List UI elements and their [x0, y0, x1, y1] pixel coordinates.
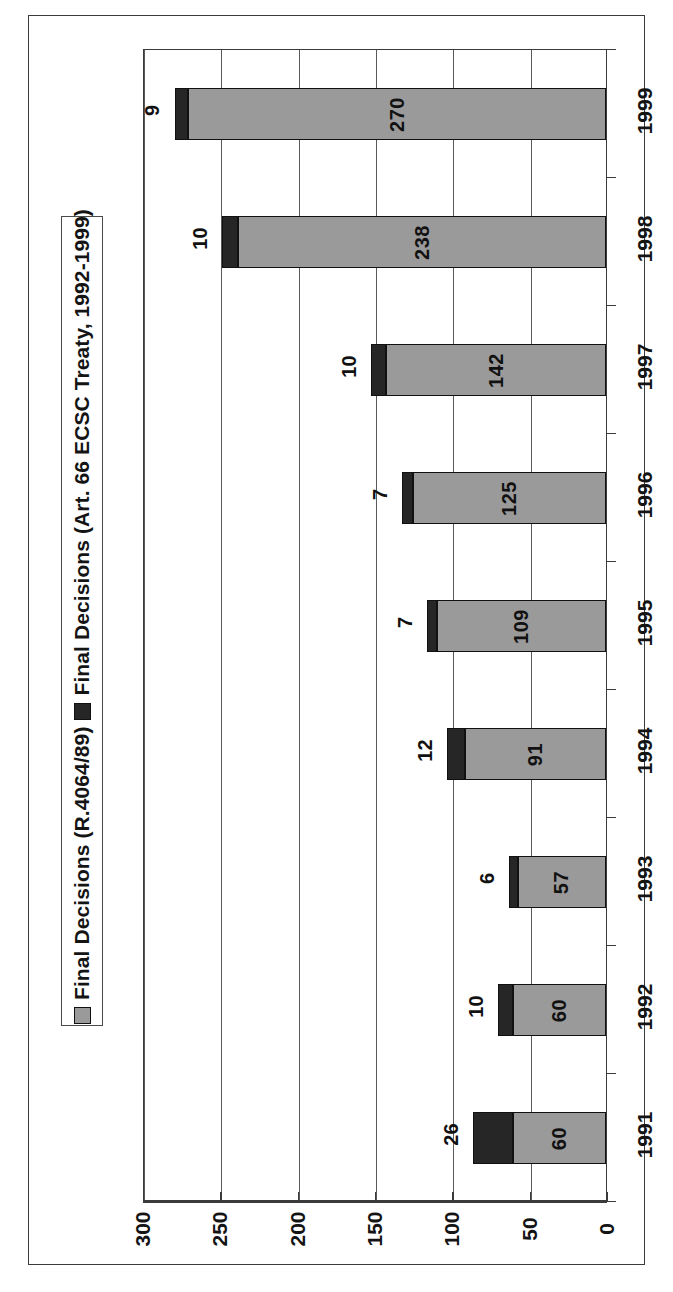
value-axis-tick-label: 0 — [595, 1201, 619, 1257]
legend-entry-secondary: Final Decisions (Art. 66 ECSC Treaty, 19… — [70, 209, 94, 719]
bar-segment-primary: 57 — [518, 856, 606, 908]
bar-value-label-primary: 270 — [386, 97, 409, 132]
bar-value-label-secondary: 7 — [368, 480, 391, 510]
bar-segment-primary: 60 — [513, 1112, 606, 1164]
bar-value-label-secondary: 26 — [439, 1120, 462, 1150]
legend-swatch-icon-primary — [74, 1007, 91, 1024]
bar-segment-secondary — [473, 1112, 513, 1164]
value-axis-tick-label: 200 — [286, 1201, 310, 1257]
bar-1996: 125 — [403, 472, 606, 524]
bar-1997: 142 — [372, 344, 606, 396]
bar-segment-secondary — [509, 856, 518, 908]
category-label-1992: 1992 — [633, 977, 657, 1037]
legend-entry-primary: Final Decisions (R.4064/89) — [70, 727, 94, 1024]
category-axis-tick — [607, 561, 616, 562]
bar-1991: 60 — [474, 1112, 606, 1164]
category-axis-tick — [607, 433, 616, 434]
bar-1995: 109 — [428, 600, 606, 652]
bar-value-label-primary: 142 — [485, 353, 508, 388]
bar-value-label-primary: 60 — [548, 1126, 571, 1149]
bar-segment-primary: 109 — [437, 600, 606, 652]
bar-segment-primary: 142 — [386, 344, 606, 396]
category-axis-tick — [607, 1073, 616, 1074]
bar-1994: 91 — [448, 728, 606, 780]
legend-entries: Final Decisions (R.4064/89) Final Decisi… — [63, 218, 101, 1024]
bar-value-label-secondary: 12 — [413, 736, 436, 766]
category-axis-tick — [607, 177, 616, 178]
bar-value-label-primary: 60 — [548, 998, 571, 1021]
bar-segment-primary: 91 — [465, 728, 606, 780]
bar-value-label-secondary: 9 — [141, 96, 164, 126]
bar-segment-primary: 125 — [413, 472, 606, 524]
legend-label-primary: Final Decisions (R.4064/89) — [70, 727, 94, 1000]
bar-value-label-secondary: 6 — [475, 864, 498, 894]
legend-swatch-icon-secondary — [74, 703, 91, 720]
category-axis-tick — [607, 689, 616, 690]
category-axis-tick — [607, 1201, 616, 1202]
bar-1998: 238 — [224, 216, 606, 268]
bar-value-label-primary: 125 — [498, 481, 521, 516]
category-label-1997: 1997 — [633, 337, 657, 397]
category-label-1998: 1998 — [633, 209, 657, 269]
bar-1999: 270 — [176, 88, 606, 140]
category-label-1991: 1991 — [633, 1105, 657, 1165]
category-label-1993: 1993 — [633, 849, 657, 909]
bar-segment-primary: 270 — [188, 88, 606, 140]
bar-segment-secondary — [402, 472, 413, 524]
bar-segment-primary: 60 — [513, 984, 606, 1036]
category-axis-tick — [607, 817, 616, 818]
chart-legend: Final Decisions (R.4064/89) Final Decisi… — [61, 216, 103, 1026]
value-axis-tick-label: 150 — [363, 1201, 387, 1257]
value-axis-tick-label: 50 — [518, 1201, 542, 1257]
value-axis-tick-label: 250 — [208, 1201, 232, 1257]
bar-value-label-primary: 57 — [550, 870, 573, 893]
category-label-1996: 1996 — [633, 465, 657, 525]
bar-segment-secondary — [498, 984, 513, 1036]
category-axis-tick — [607, 945, 616, 946]
bar-value-label-secondary: 10 — [464, 992, 487, 1022]
category-axis-tick — [607, 305, 616, 306]
bar-1992: 60 — [499, 984, 606, 1036]
bar-value-label-secondary: 7 — [393, 608, 416, 638]
bar-segment-secondary — [447, 728, 466, 780]
bar-value-label-secondary: 10 — [337, 352, 360, 382]
value-axis-tick-label: 100 — [440, 1201, 464, 1257]
legend-label-secondary: Final Decisions (Art. 66 ECSC Treaty, 19… — [70, 209, 94, 695]
bar-segment-secondary — [175, 88, 189, 140]
gridline — [144, 50, 145, 1200]
figure-frame: 27023814212510991576060 Final Decisions … — [28, 15, 645, 1265]
bar-value-label-primary: 109 — [510, 609, 533, 644]
bar-value-label-primary: 238 — [410, 225, 433, 260]
bar-value-label-secondary: 10 — [189, 224, 212, 254]
bar-segment-secondary — [371, 344, 386, 396]
category-label-1999: 1999 — [633, 81, 657, 141]
value-axis-tick-label: 300 — [131, 1201, 155, 1257]
bar-segment-primary: 238 — [238, 216, 606, 268]
plot-area: 27023814212510991576060 — [143, 49, 607, 1201]
bar-segment-secondary — [427, 600, 438, 652]
bar-segment-secondary — [222, 216, 237, 268]
bar-1993: 57 — [510, 856, 606, 908]
category-axis-tick — [607, 49, 616, 50]
category-label-1995: 1995 — [633, 593, 657, 653]
bar-value-label-primary: 91 — [524, 742, 547, 765]
category-label-1994: 1994 — [633, 721, 657, 781]
